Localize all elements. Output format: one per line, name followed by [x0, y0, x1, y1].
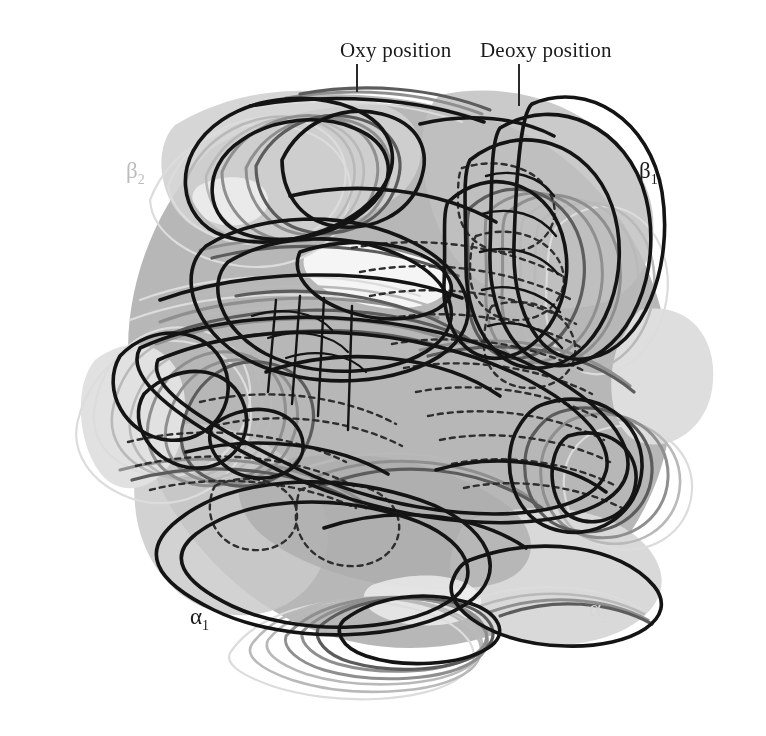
subunit-label-alpha1: α1: [190, 604, 209, 634]
subunit-index: 1: [651, 172, 658, 187]
subunit-letter: β: [639, 158, 651, 183]
subunit-index: 2: [601, 610, 608, 625]
annotation-deoxy-leader: [518, 64, 520, 106]
subunit-letter: β: [126, 158, 138, 183]
subunit-label-beta1: β1: [639, 158, 658, 188]
subunit-label-beta2: β2: [126, 158, 145, 188]
annotation-deoxy-label: Deoxy position: [480, 38, 612, 63]
subunit-letter: α: [589, 596, 601, 621]
ribbon-alpha1-hairpin: [339, 596, 499, 664]
subunit-label-alpha2: α2: [589, 596, 608, 626]
annotation-oxy-leader: [356, 64, 358, 92]
annotation-oxy-label: Oxy position: [340, 38, 452, 63]
subunit-index: 2: [138, 172, 145, 187]
trace-layer-black: [0, 0, 766, 736]
subunit-index: 1: [202, 618, 209, 633]
figure-canvas: Oxy position Deoxy position β2 β1 α1 α2: [0, 0, 766, 736]
subunit-letter: α: [190, 604, 202, 629]
